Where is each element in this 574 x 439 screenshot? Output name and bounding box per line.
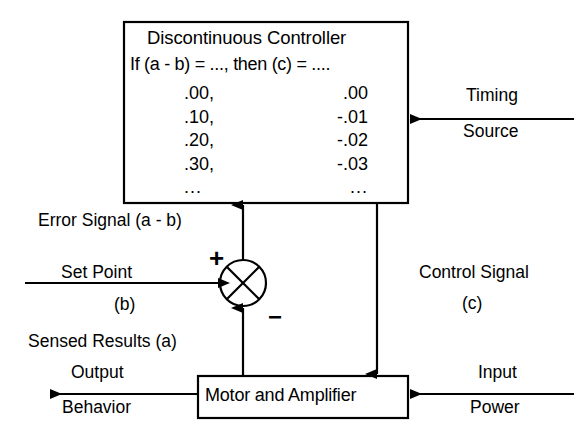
lookup-table-row: .00,.00 bbox=[124, 82, 408, 106]
lookup-input-value: .20, bbox=[184, 129, 214, 153]
controller-lookup-table: .00,.00.10,-.01.20,-.02.30,-.03...... bbox=[124, 82, 408, 200]
behavior-label: Behavior bbox=[62, 398, 131, 417]
lookup-table-row: .10,-.01 bbox=[124, 106, 408, 130]
lookup-table-row: .30,-.03 bbox=[124, 153, 408, 177]
lookup-output-value: -.03 bbox=[337, 153, 368, 177]
control-signal-label: Control Signal bbox=[419, 263, 529, 282]
controller-rule: If (a - b) = ..., then (c) = .... bbox=[130, 55, 330, 74]
set-point-variable-label: (b) bbox=[114, 295, 135, 314]
lookup-table-row: ...... bbox=[124, 176, 408, 200]
lookup-input-value: .00, bbox=[184, 82, 214, 106]
error-signal-label: Error Signal (a - b) bbox=[38, 211, 182, 230]
controller-title: Discontinuous Controller bbox=[147, 28, 346, 48]
summing-plus-sign: + bbox=[209, 245, 224, 271]
input-label: Input bbox=[478, 363, 517, 382]
lookup-input-value: .10, bbox=[184, 106, 214, 130]
lookup-output-value: -.01 bbox=[337, 106, 368, 130]
power-label: Power bbox=[470, 398, 520, 417]
lookup-input-value: .30, bbox=[184, 153, 214, 177]
lookup-output-value: ... bbox=[350, 176, 368, 200]
output-label: Output bbox=[71, 363, 124, 382]
lookup-input-value: ... bbox=[184, 176, 202, 200]
lookup-output-value: -.02 bbox=[337, 129, 368, 153]
lookup-table-row: .20,-.02 bbox=[124, 129, 408, 153]
block-diagram: Discontinuous Controller If (a - b) = ..… bbox=[0, 0, 574, 439]
summing-minus-sign: − bbox=[268, 305, 282, 329]
set-point-label: Set Point bbox=[61, 263, 132, 282]
control-signal-variable-label: (c) bbox=[462, 294, 482, 313]
sensed-results-label: Sensed Results (a) bbox=[28, 332, 177, 351]
plant-label: Motor and Amplifier bbox=[205, 386, 356, 405]
lookup-output-value: .00 bbox=[343, 82, 368, 106]
timing-source-label-line1: Timing bbox=[466, 86, 518, 105]
timing-source-label-line2: Source bbox=[463, 122, 518, 141]
